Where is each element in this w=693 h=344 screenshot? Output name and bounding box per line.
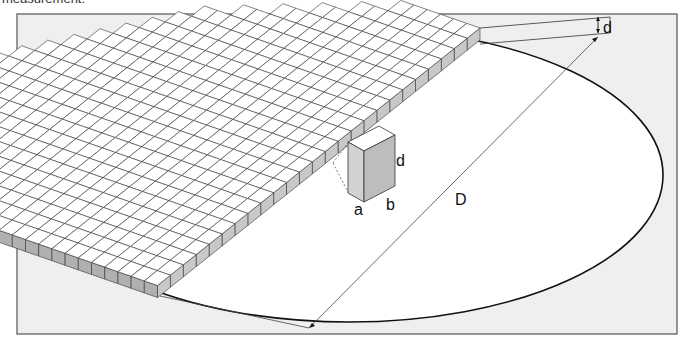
die-depth-label: b	[386, 196, 395, 213]
diameter-label: D	[455, 191, 467, 208]
thickness-label: d	[603, 19, 612, 36]
die-height-label: d	[396, 152, 405, 169]
wafer-diagram: d D d a b	[0, 0, 693, 344]
die-width-label: a	[354, 201, 363, 218]
